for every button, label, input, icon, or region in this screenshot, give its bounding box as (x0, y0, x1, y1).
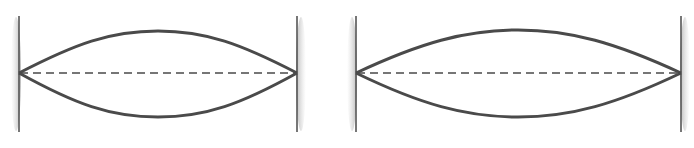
string-trough (19, 73, 297, 117)
string-trough (356, 73, 681, 117)
panel-left (11, 16, 306, 132)
standing-wave-diagram (0, 0, 694, 148)
string-crest (19, 31, 297, 73)
string-crest (356, 30, 681, 73)
panel-right (347, 16, 690, 132)
